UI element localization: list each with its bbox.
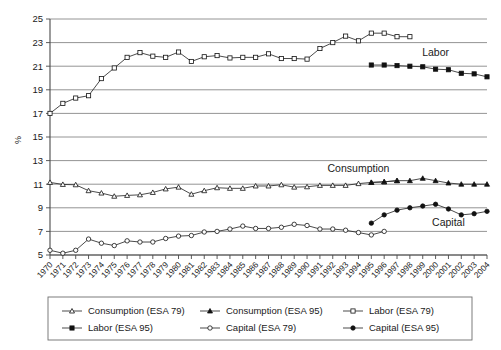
data-point-marker [485, 75, 489, 79]
data-point-marker [61, 251, 65, 255]
data-point-marker [176, 50, 180, 54]
data-point-marker [151, 240, 155, 244]
data-point-marker [266, 226, 270, 230]
y-axis-tick-label: 23 [32, 37, 43, 48]
data-point-marker [344, 34, 348, 38]
data-point-marker [202, 230, 206, 234]
y-axis-tick-label: 9 [38, 202, 43, 213]
legend-border [48, 297, 472, 340]
data-point-marker [112, 243, 116, 247]
data-point-marker [292, 222, 296, 226]
data-point-marker [369, 63, 373, 67]
data-point-marker [241, 55, 245, 59]
annotations: LaborConsumptionCapital [328, 46, 465, 228]
y-axis-tick-label: 7 [38, 226, 43, 237]
y-axis-tick-label: 13 [32, 155, 43, 166]
x-axis-ticks: 1970197119721973197419751976197719781979… [35, 255, 492, 280]
data-point-marker [99, 241, 103, 245]
data-point-marker [305, 223, 309, 227]
series-annotation: Labor [422, 46, 449, 58]
line-chart: 5791113151719212325%19701971197219731974… [0, 0, 501, 350]
legend: Consumption (ESA 79)Consumption (ESA 95)… [48, 297, 472, 340]
data-point-marker [163, 236, 167, 240]
data-point-marker [433, 67, 437, 71]
series-3 [369, 63, 489, 79]
series-4 [48, 222, 387, 255]
data-point-marker [433, 202, 437, 206]
series-line [50, 33, 410, 113]
chart-container: 5791113151719212325%19701971197219731974… [0, 0, 501, 350]
data-point-marker [421, 204, 425, 208]
data-point-marker [164, 55, 168, 59]
data-point-marker [408, 206, 412, 210]
data-point-marker [189, 233, 193, 237]
data-point-marker [459, 71, 463, 75]
data-point-marker [61, 101, 65, 105]
y-axis-title: % [13, 136, 23, 144]
y-axis-tick-label: 5 [38, 249, 43, 260]
y-axis-tick-label: 25 [32, 13, 43, 24]
data-point-marker [176, 185, 181, 190]
y-axis-tick-label: 17 [32, 108, 43, 119]
data-point-marker [48, 180, 53, 185]
data-point-marker [138, 240, 142, 244]
data-point-marker [382, 229, 386, 233]
data-point-marker [408, 64, 412, 68]
x-axis-tick-label: 2004 [472, 259, 492, 280]
data-point-marker [86, 237, 90, 241]
data-point-marker [138, 51, 142, 55]
data-point-marker [369, 233, 373, 237]
legend-label: Consumption (ESA 95) [226, 305, 323, 316]
data-point-marker [446, 207, 450, 211]
data-point-marker [189, 59, 193, 63]
series-line [371, 204, 487, 223]
data-point-marker [395, 208, 399, 212]
gridlines: 5791113151719212325 [32, 13, 487, 260]
legend-label: Labor (ESA 95) [88, 322, 153, 333]
data-point-marker [395, 35, 399, 39]
data-point-marker [395, 64, 399, 68]
data-point-marker [369, 221, 373, 225]
series-2 [48, 31, 412, 115]
data-point-marker [369, 31, 373, 35]
legend-item[interactable]: Labor (ESA 95) [62, 322, 153, 333]
data-point-marker [331, 227, 335, 231]
data-point-marker [485, 209, 489, 213]
data-point-marker [266, 52, 270, 56]
series-line [371, 178, 487, 184]
data-point-marker [254, 55, 258, 59]
data-point-marker [356, 230, 360, 234]
data-point-marker [253, 226, 257, 230]
y-axis-tick-label: 21 [32, 61, 43, 72]
series-0 [48, 178, 400, 198]
y-axis-tick-label: 11 [33, 179, 43, 190]
data-point-marker [421, 65, 425, 69]
data-point-marker [446, 68, 450, 72]
legend-item[interactable]: Capital (ESA 79) [200, 322, 296, 333]
data-point-marker [112, 66, 116, 70]
data-point-marker [472, 212, 476, 216]
data-point-marker [318, 46, 322, 50]
legend-item[interactable]: Labor (ESA 79) [343, 305, 434, 316]
data-point-marker [151, 54, 155, 58]
data-point-marker [125, 239, 129, 243]
legend-label: Capital (ESA 79) [226, 322, 296, 333]
legend-item[interactable]: Capital (ESA 95) [343, 322, 439, 333]
data-point-marker [420, 176, 425, 181]
data-point-marker [408, 35, 412, 39]
legend-item[interactable]: Consumption (ESA 95) [200, 305, 323, 316]
data-point-marker [279, 225, 283, 229]
data-point-marker [48, 111, 52, 115]
data-point-marker [356, 39, 360, 43]
data-point-marker [86, 94, 90, 98]
data-point-marker [241, 224, 245, 228]
legend-item[interactable]: Consumption (ESA 79) [62, 305, 185, 316]
data-point-marker [74, 248, 78, 252]
data-point-marker [331, 41, 335, 45]
series-line [371, 65, 487, 77]
series-annotation: Consumption [328, 162, 390, 174]
data-point-marker [228, 56, 232, 60]
data-point-marker [74, 96, 78, 100]
data-point-marker [305, 57, 309, 61]
data-point-marker [86, 188, 91, 193]
